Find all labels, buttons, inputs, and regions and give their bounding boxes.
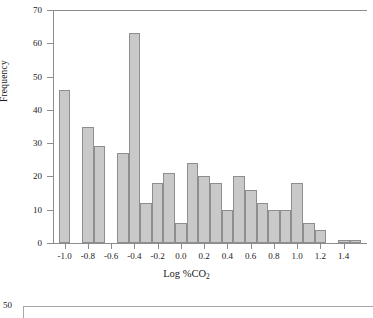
next-figure-axis-frame	[23, 306, 373, 318]
histogram-bar	[82, 127, 94, 244]
y-axis-tick-label: 40	[16, 106, 42, 115]
histogram-bar	[268, 210, 280, 243]
x-axis-tick	[111, 244, 112, 249]
histogram-bar	[117, 153, 129, 243]
histogram-bar	[257, 203, 269, 243]
histogram-bar	[222, 210, 234, 243]
histogram-bar	[129, 33, 141, 243]
histogram-bar	[175, 223, 187, 243]
x-axis-label: Log %CO2	[0, 268, 373, 279]
histogram-bar	[315, 230, 327, 243]
y-axis-tick-label: 0	[16, 239, 42, 248]
y-axis-tick-label: 60	[16, 39, 42, 48]
y-axis-tick-label: 10	[16, 206, 42, 215]
histogram-bar	[210, 183, 222, 243]
x-axis-tick-label: 1.4	[329, 252, 359, 261]
x-axis-tick	[134, 244, 135, 249]
histogram-bar	[59, 90, 71, 243]
next-figure-fragment: 50	[0, 290, 373, 318]
y-axis-tick-label: 70	[16, 6, 42, 15]
x-axis-tick	[227, 244, 228, 249]
histogram-bar	[94, 146, 106, 243]
histogram-bars	[53, 10, 367, 243]
next-figure-ytick-label: 50	[3, 301, 12, 310]
x-axis-tick	[204, 244, 205, 249]
histogram-bar	[280, 210, 292, 243]
histogram-bar	[163, 173, 175, 243]
x-axis-tick	[344, 244, 345, 249]
histogram-bar	[350, 240, 362, 243]
histogram-bar	[198, 176, 210, 243]
histogram-bar	[233, 176, 245, 243]
y-axis-label: Frequency	[0, 2, 13, 102]
histogram-bar	[187, 163, 199, 243]
histogram-bar	[338, 240, 350, 243]
histogram-bar	[291, 183, 303, 243]
histogram-bar	[140, 203, 152, 243]
y-axis-tick-label: 20	[16, 172, 42, 181]
x-axis-tick	[158, 244, 159, 249]
x-axis-tick	[320, 244, 321, 249]
x-axis-tick	[274, 244, 275, 249]
x-axis-tick	[181, 244, 182, 249]
histogram-bar	[303, 223, 315, 243]
y-axis-tick-label: 30	[16, 139, 42, 148]
x-axis-label-text: Log %CO	[163, 268, 206, 279]
x-axis-tick	[65, 244, 66, 249]
x-axis-tick	[297, 244, 298, 249]
y-axis-tick-label: 50	[16, 73, 42, 82]
y-axis-tick	[47, 243, 53, 244]
x-axis-tick	[88, 244, 89, 249]
histogram-figure: Frequency 010203040506070 -1.0-0.8-0.6-0…	[0, 0, 373, 290]
histogram-bar	[152, 183, 164, 243]
x-axis-tick	[251, 244, 252, 249]
histogram-bar	[245, 190, 257, 243]
x-axis-label-subscript: 2	[206, 272, 210, 281]
